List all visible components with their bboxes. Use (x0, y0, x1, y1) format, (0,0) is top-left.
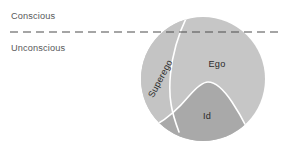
label-conscious: Conscious (11, 11, 56, 21)
label-unconscious: Unconscious (11, 43, 66, 53)
diagram-canvas: Conscious Unconscious Superego Ego Id (0, 0, 293, 156)
psyche-diagram: Conscious Unconscious Superego Ego Id (0, 0, 293, 156)
label-id: Id (203, 111, 211, 121)
label-ego: Ego (209, 59, 226, 69)
